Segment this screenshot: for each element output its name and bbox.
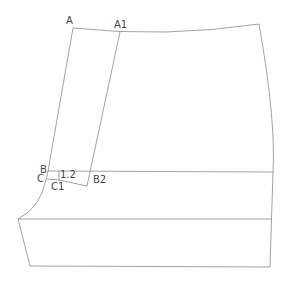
label-measure-1-2: 1.2 [60, 170, 76, 180]
pattern-diagram: A A1 B C 1.2 C1 B2 [0, 0, 286, 286]
right-side-seam [259, 24, 273, 267]
label-c1: C1 [51, 182, 64, 192]
line-a-b [48, 28, 73, 171]
line-a1-b2 [87, 32, 120, 186]
hip-line [48, 171, 273, 172]
label-a1: A1 [114, 20, 127, 30]
pattern-lines [0, 0, 286, 286]
hem-line [30, 266, 270, 267]
label-a: A [66, 16, 73, 26]
label-b2: B2 [93, 175, 106, 185]
inseam-line [18, 219, 30, 266]
label-c: C [37, 174, 44, 184]
waist-line [73, 24, 259, 32]
